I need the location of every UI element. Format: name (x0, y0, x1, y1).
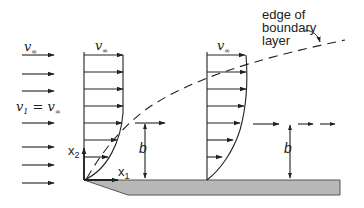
thickness-label-2: b (284, 140, 292, 156)
x1-axis-label: x1 (118, 164, 130, 181)
inlet-condition-label: v1 = v∞ (16, 99, 61, 116)
inlet-arrows (22, 55, 54, 183)
boundary-layer-diagram: v∞ v∞ v∞ v1 = v∞ x2 x1 b b edge of bound… (0, 0, 364, 208)
profile-2-velocity-label: v∞ (217, 38, 230, 55)
profile-1-velocity-label: v∞ (95, 38, 108, 55)
x2-axis-label: x2 (68, 143, 80, 160)
free-stream-velocity-label: v∞ (24, 39, 37, 56)
edge-label-line-3: layer (262, 33, 291, 48)
thickness-label-1: b (139, 140, 147, 156)
flat-plate (84, 180, 340, 195)
velocity-profile-1 (84, 52, 123, 180)
